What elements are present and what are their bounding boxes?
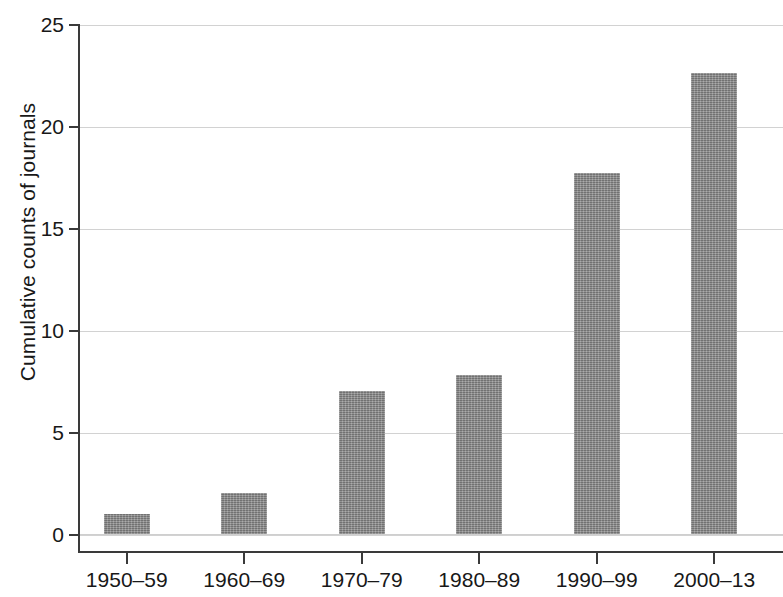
plot-area: 0510152025 bbox=[78, 25, 783, 535]
x-tick-mark bbox=[596, 553, 598, 564]
y-tick-label: 0 bbox=[52, 523, 64, 547]
y-tick-label: 25 bbox=[41, 13, 64, 37]
y-tick-mark bbox=[69, 228, 80, 230]
y-tick-label: 5 bbox=[52, 421, 64, 445]
bar bbox=[574, 173, 620, 534]
x-tick-mark bbox=[126, 553, 128, 564]
x-tick-label: 1990–99 bbox=[556, 568, 638, 592]
bar bbox=[456, 375, 502, 534]
x-axis: 1950–591960–691970–791980–891990–992000–… bbox=[78, 551, 783, 597]
y-axis-line bbox=[78, 25, 80, 535]
y-tick-mark bbox=[69, 432, 80, 434]
y-tick-mark bbox=[69, 126, 80, 128]
x-axis-line bbox=[78, 551, 783, 553]
gridline bbox=[80, 535, 783, 536]
bar bbox=[691, 73, 737, 534]
x-axis-left-cap bbox=[78, 535, 80, 553]
gridline bbox=[80, 25, 783, 26]
y-tick-label: 10 bbox=[41, 319, 64, 343]
gridline bbox=[80, 433, 783, 434]
gridline bbox=[80, 127, 783, 128]
x-tick-label: 2000–13 bbox=[673, 568, 755, 592]
x-tick-mark bbox=[243, 553, 245, 564]
y-tick-mark bbox=[69, 330, 80, 332]
y-tick-label: 15 bbox=[41, 217, 64, 241]
y-tick-label: 20 bbox=[41, 115, 64, 139]
gridline bbox=[80, 229, 783, 230]
gridline bbox=[80, 331, 783, 332]
x-tick-mark bbox=[713, 553, 715, 564]
bar bbox=[339, 391, 385, 534]
y-tick-mark bbox=[69, 24, 80, 26]
bar bbox=[104, 514, 150, 534]
x-tick-label: 1950–59 bbox=[86, 568, 168, 592]
x-tick-mark bbox=[478, 553, 480, 564]
y-axis-title: Cumulative counts of journals bbox=[16, 77, 40, 407]
x-tick-label: 1980–89 bbox=[438, 568, 520, 592]
x-tick-mark bbox=[361, 553, 363, 564]
x-tick-label: 1960–69 bbox=[203, 568, 285, 592]
bar bbox=[221, 493, 267, 534]
x-tick-label: 1970–79 bbox=[321, 568, 403, 592]
bar-chart: Cumulative counts of journals 0510152025… bbox=[0, 0, 783, 597]
